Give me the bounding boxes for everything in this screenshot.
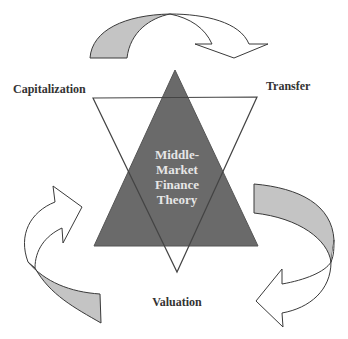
center-title: Middle- Market Finance Theory	[155, 147, 199, 207]
diagram-canvas: Middle- Market Finance Theory Capitaliza…	[0, 0, 348, 339]
center-line-3: Finance	[155, 177, 199, 192]
label-capitalization: Capitalization	[13, 82, 86, 96]
arrow-left-band	[28, 262, 101, 323]
arrow-right-band	[254, 184, 334, 262]
arrow-capitalization-to-transfer	[90, 14, 268, 58]
arrow-left-head	[24, 186, 82, 268]
center-line-4: Theory	[157, 192, 198, 207]
arrow-transfer-to-valuation	[254, 184, 334, 327]
center-line-1: Middle-	[155, 147, 199, 162]
label-valuation: Valuation	[152, 295, 202, 309]
arrow-right-head	[256, 240, 334, 327]
label-transfer: Transfer	[266, 79, 311, 93]
arrow-valuation-to-capitalization	[24, 186, 101, 323]
center-line-2: Market	[156, 162, 199, 177]
arrow-top-band	[90, 14, 170, 58]
arrow-top-head	[170, 14, 268, 58]
